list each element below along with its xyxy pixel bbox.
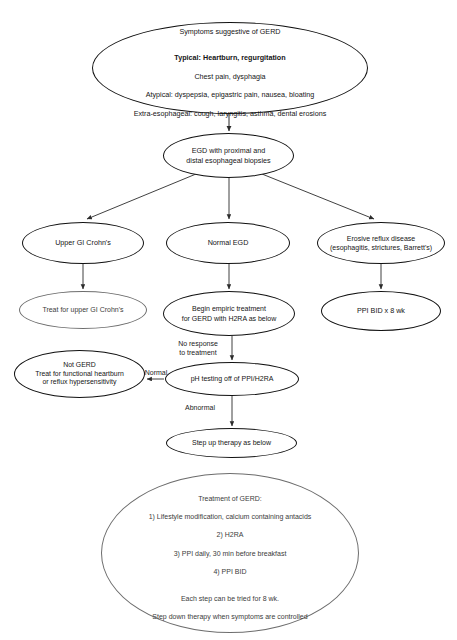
node-treat-upper-gi-crohns[interactable]: Treat for upper GI Crohn's: [19, 291, 147, 329]
symptoms-typical: Typical: Heartburn, regurgitation: [134, 53, 327, 62]
node-egd-label: EGD with proximal and distal esophageal …: [180, 146, 276, 165]
node-treat-crohns-label: Treat for upper GI Crohn's: [36, 305, 129, 314]
treatment-step-2: 2) H2RA: [217, 531, 244, 538]
node-not-gerd[interactable]: Not GERD Treat for functional heartburn …: [14, 350, 145, 398]
treatment-step-3: 3) PPI daily, 30 min before breakfast: [174, 550, 287, 557]
treatment-step-1: 1) Lifestyle modification, calcium conta…: [149, 513, 312, 520]
node-ph-testing[interactable]: pH testing off of PPI/H2RA: [165, 362, 299, 396]
node-normal-egd[interactable]: Normal EGD: [166, 222, 290, 264]
node-step-up-label: Step up therapy as below: [186, 438, 277, 447]
node-begin-empiric-treatment[interactable]: Begin empiric treatment for GERD with H2…: [163, 291, 295, 336]
node-symptoms-suggestive-of-gerd[interactable]: Symptoms suggestive of GERD Typical: Hea…: [92, 22, 368, 114]
treatment-note-1: Each step can be tried for 8 wk.: [181, 595, 279, 602]
edge-label-no-response-to-treatment: No response to treatment: [165, 340, 231, 358]
edge-egd-to-crohns: [87, 174, 196, 219]
node-upper-gi-crohns[interactable]: Upper GI Crohn's: [22, 222, 144, 264]
node-erosive-label: Erosive reflux disease (esophagitis, str…: [324, 234, 438, 252]
symptoms-lead: Symptoms suggestive of GERD: [134, 27, 327, 36]
treatment-legend-text: Treatment of GERD: 1) Lifestyle modifica…: [133, 485, 328, 621]
node-ph-testing-label: pH testing off of PPI/H2RA: [185, 374, 280, 383]
symptoms-line2: Chest pain, dysphagia: [194, 72, 265, 81]
flowchart-canvas: Symptoms suggestive of GERD Typical: Hea…: [0, 0, 457, 640]
treatment-step-4: 4) PPI BID: [213, 568, 246, 575]
node-erosive-reflux-disease[interactable]: Erosive reflux disease (esophagitis, str…: [317, 222, 445, 264]
node-step-up-therapy[interactable]: Step up therapy as below: [166, 428, 297, 458]
node-upper-gi-crohns-label: Upper GI Crohn's: [49, 238, 117, 247]
symptoms-line3: Atypical: dyspepsia, epigastric pain, na…: [146, 90, 315, 99]
node-ppi-bid-8-weeks[interactable]: PPI BID x 8 wk: [321, 291, 441, 331]
treatment-heading: Treatment of GERD:: [198, 495, 262, 502]
node-treatment-of-gerd-legend[interactable]: Treatment of GERD: 1) Lifestyle modifica…: [101, 473, 359, 633]
node-symptoms-text: Symptoms suggestive of GERD Typical: Hea…: [128, 18, 333, 119]
node-not-gerd-label: Not GERD Treat for functional heartburn …: [29, 361, 130, 388]
edge-label-normal: Normal: [139, 369, 173, 378]
node-egd-with-biopsies[interactable]: EGD with proximal and distal esophageal …: [163, 133, 294, 178]
edge-label-abnormal: Abnormal: [176, 404, 224, 413]
treatment-note-2: Step down therapy when symptoms are cont…: [152, 613, 307, 620]
node-normal-egd-label: Normal EGD: [202, 238, 255, 247]
treatment-spacer: [149, 576, 312, 585]
edge-egd-to-erosive: [262, 174, 374, 219]
node-ppi-bid-label: PPI BID x 8 wk: [351, 306, 411, 315]
symptoms-line4: Extra-esophageal: cough, laryngitis, ast…: [134, 109, 327, 118]
node-empiric-label: Begin empiric treatment for GERD with H2…: [176, 304, 283, 322]
